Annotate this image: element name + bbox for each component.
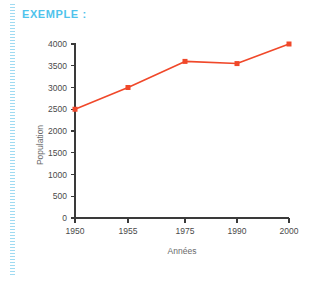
y-tick-label: 500	[53, 191, 67, 201]
x-axis-title: Années	[168, 246, 197, 256]
data-point-marker	[73, 107, 78, 112]
data-series-line	[75, 44, 289, 109]
x-tick-label: 1990	[228, 226, 247, 236]
x-axis-ticks: 19501955197519902000	[66, 218, 299, 236]
x-tick-label: 1950	[66, 226, 85, 236]
data-point-marker	[287, 42, 292, 47]
x-tick-label: 1955	[119, 226, 138, 236]
y-tick-label: 4000	[48, 39, 67, 49]
y-axis-ticks: 05001000150020002500300035004000	[48, 39, 75, 223]
y-tick-label: 0	[62, 213, 67, 223]
data-point-marker	[126, 85, 131, 90]
y-tick-label: 1000	[48, 170, 67, 180]
chart-svg: 05001000150020002500300035004000 1950195…	[0, 30, 320, 281]
y-axis-title: Population	[35, 125, 45, 165]
y-tick-label: 3500	[48, 61, 67, 71]
y-tick-label: 2500	[48, 104, 67, 114]
line-chart: 05001000150020002500300035004000 1950195…	[0, 30, 320, 281]
data-point-marker	[183, 59, 188, 64]
x-tick-label: 2000	[280, 226, 299, 236]
y-tick-label: 1500	[48, 148, 67, 158]
x-tick-label: 1975	[176, 226, 195, 236]
data-series-markers	[73, 42, 292, 112]
y-tick-label: 2000	[48, 126, 67, 136]
y-tick-label: 3000	[48, 83, 67, 93]
page-title: EXEMPLE :	[22, 8, 87, 20]
data-point-marker	[235, 61, 240, 66]
chart-page: EXEMPLE : 050010001500200025003000350040…	[0, 0, 320, 281]
